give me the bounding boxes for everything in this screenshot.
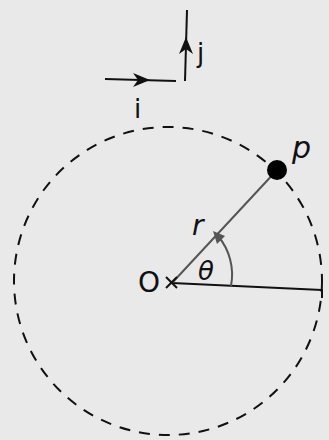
unit-vector-i bbox=[105, 73, 176, 87]
label-i: i bbox=[134, 94, 141, 124]
label-r: r bbox=[192, 209, 205, 242]
radius-line bbox=[172, 170, 277, 283]
label-p: p bbox=[291, 130, 311, 165]
diagram-canvas: j i p r θ O bbox=[0, 0, 329, 440]
unit-vector-j bbox=[179, 10, 193, 81]
label-j: j bbox=[196, 38, 204, 68]
particle-p bbox=[267, 160, 287, 180]
reference-axis bbox=[172, 283, 322, 298]
label-origin: O bbox=[138, 266, 160, 299]
angle-arc bbox=[213, 231, 232, 286]
label-theta: θ bbox=[198, 256, 214, 286]
